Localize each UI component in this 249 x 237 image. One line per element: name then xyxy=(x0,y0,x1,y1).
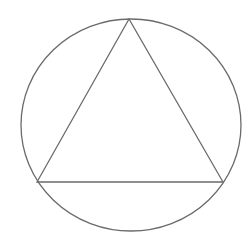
inscribed-triangle-diagram xyxy=(0,0,249,237)
circumscribed-circle xyxy=(21,19,241,231)
inscribed-triangle xyxy=(37,19,223,182)
diagram-canvas xyxy=(0,0,249,237)
